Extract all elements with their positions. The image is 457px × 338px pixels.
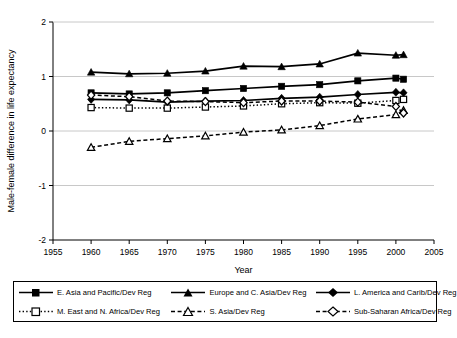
data-point bbox=[392, 88, 399, 96]
x-axis-ticks: 1955196019651970197519801985199019952000… bbox=[44, 240, 444, 257]
legend-swatch-open-diamond-icon bbox=[316, 306, 350, 317]
legend-label-europe-and-c-asia: Europe and C. Asia/Dev Reg bbox=[209, 289, 306, 297]
data-point bbox=[400, 96, 406, 102]
y-tick-label: 1 bbox=[41, 72, 46, 82]
legend-item-sub-saharan-africa: Sub-Saharan Africa/Dev Reg bbox=[316, 306, 436, 317]
data-point bbox=[164, 97, 171, 105]
x-tick-label: 2005 bbox=[425, 247, 444, 257]
series-europe-and-c-asia-dev-reg bbox=[87, 49, 407, 76]
legend-label-l-america-and-carib: L. America and Carib/Dev Reg bbox=[354, 289, 457, 297]
x-tick-label: 1965 bbox=[120, 247, 139, 257]
data-point bbox=[317, 82, 323, 88]
x-tick-label: 1980 bbox=[234, 247, 253, 257]
x-tick-label: 1990 bbox=[310, 247, 329, 257]
data-point bbox=[164, 90, 170, 96]
series-line bbox=[91, 110, 403, 147]
legend-label-m-east-and-n-africa: M. East and N. Africa/Dev Reg bbox=[57, 308, 160, 316]
data-point bbox=[393, 75, 399, 81]
data-point bbox=[88, 104, 94, 110]
legend-swatch-open-triangle-icon bbox=[171, 306, 205, 317]
legend-label-sub-saharan-africa: Sub-Saharan Africa/Dev Reg bbox=[354, 308, 452, 316]
legend-swatch-filled-triangle-icon bbox=[171, 287, 205, 298]
legend-row-2: M. East and N. Africa/Dev Reg S. Asia/De… bbox=[14, 302, 436, 321]
y-axis-ticks: -2-1012 bbox=[38, 17, 53, 245]
y-tick-label: 0 bbox=[41, 126, 46, 136]
y-axis-label: Male-female difference in life expectanc… bbox=[6, 49, 16, 212]
x-tick-label: 1970 bbox=[158, 247, 177, 257]
legend-swatch-filled-diamond-icon bbox=[316, 287, 350, 298]
x-tick-label: 1995 bbox=[348, 247, 367, 257]
series-s-asia-dev-reg bbox=[87, 107, 407, 151]
legend-row-1: E. Asia and Pacific/Dev Reg Europe and C… bbox=[14, 283, 436, 302]
x-tick-label: 2000 bbox=[386, 247, 405, 257]
x-tick-label: 1975 bbox=[196, 247, 215, 257]
data-point bbox=[400, 76, 406, 82]
data-point bbox=[240, 85, 246, 91]
legend-swatch-filled-square-icon bbox=[19, 287, 53, 298]
legend-label-e-asia-and-pacific: E. Asia and Pacific/Dev Reg bbox=[57, 289, 152, 297]
chart-legend: E. Asia and Pacific/Dev Reg Europe and C… bbox=[13, 281, 437, 322]
data-series bbox=[87, 49, 407, 150]
y-tick-label: -1 bbox=[38, 181, 46, 191]
data-point bbox=[400, 89, 407, 97]
data-point bbox=[202, 88, 208, 94]
data-point bbox=[240, 128, 247, 135]
data-point bbox=[355, 78, 361, 84]
data-point bbox=[279, 83, 285, 89]
legend-item-m-east-and-n-africa: M. East and N. Africa/Dev Reg bbox=[19, 306, 171, 317]
legend-item-europe-and-c-asia: Europe and C. Asia/Dev Reg bbox=[171, 287, 316, 298]
x-tick-label: 1960 bbox=[82, 247, 101, 257]
data-point bbox=[164, 105, 170, 111]
legend-swatch-open-square-icon bbox=[19, 306, 53, 317]
x-tick-label: 1985 bbox=[272, 247, 291, 257]
legend-item-e-asia-and-pacific: E. Asia and Pacific/Dev Reg bbox=[19, 287, 171, 298]
data-point bbox=[126, 105, 132, 111]
x-tick-label: 1955 bbox=[44, 247, 63, 257]
legend-label-s-asia: S. Asia/Dev Reg bbox=[209, 308, 264, 316]
legend-item-l-america-and-carib: L. America and Carib/Dev Reg bbox=[316, 287, 436, 298]
x-axis-label: Year bbox=[234, 265, 252, 275]
legend-item-s-asia: S. Asia/Dev Reg bbox=[171, 306, 316, 317]
y-tick-label: -2 bbox=[38, 235, 46, 245]
y-tick-label: 2 bbox=[41, 17, 46, 27]
